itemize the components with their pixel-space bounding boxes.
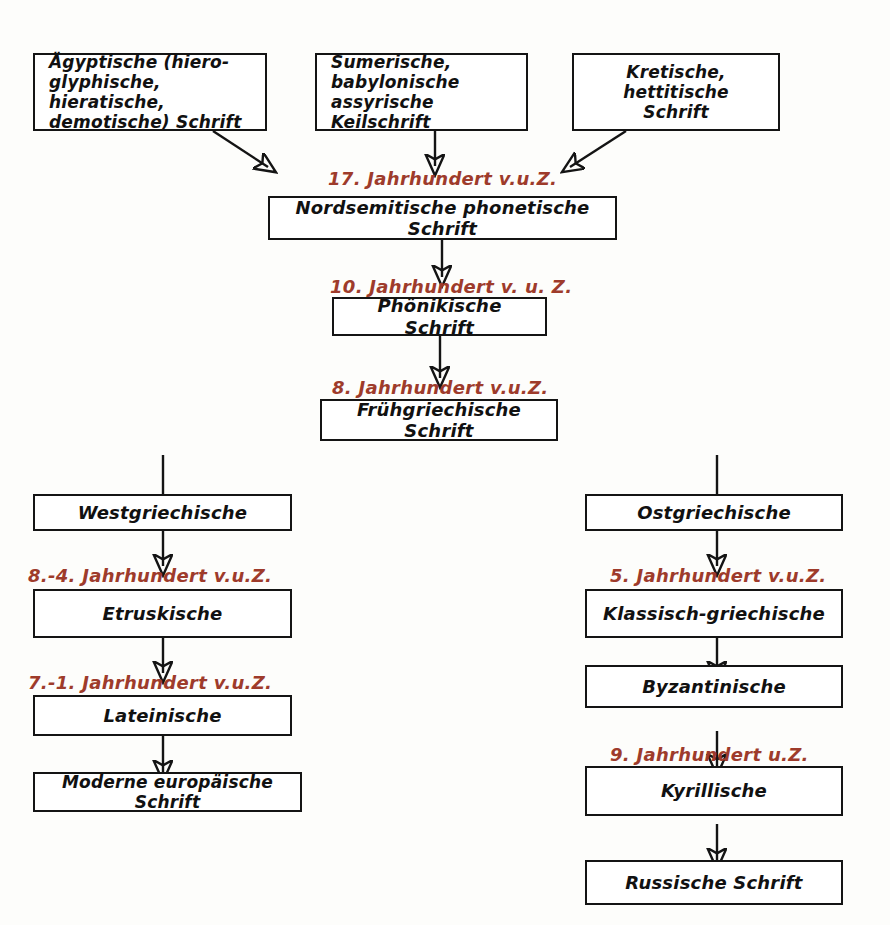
node-kyrillische-label: Kyrillische bbox=[661, 780, 767, 801]
node-ostgriechische[interactable]: Ostgriechische bbox=[585, 494, 843, 531]
node-etruskische-label: Etruskische bbox=[102, 603, 222, 624]
era-5-jahrhundert: 5. Jahrhundert v.u.Z. bbox=[610, 565, 826, 586]
era-8-jahrhundert: 8. Jahrhundert v.u.Z. bbox=[332, 377, 548, 398]
node-etruskische[interactable]: Etruskische bbox=[33, 589, 292, 638]
node-kyrillische[interactable]: Kyrillische bbox=[585, 766, 843, 816]
era-10-jahrhundert: 10. Jahrhundert v. u. Z. bbox=[330, 276, 572, 297]
node-keilschrift[interactable]: Sumerische, babylonische assyrische Keil… bbox=[315, 53, 528, 131]
era-7-1-jahrhundert: 7.-1. Jahrhundert v.u.Z. bbox=[28, 672, 272, 693]
node-nordsemitische[interactable]: Nordsemitische phonetische Schrift bbox=[268, 196, 617, 240]
node-westgriechische-label: Westgriechische bbox=[78, 502, 247, 523]
node-kretische[interactable]: Kretische, hettitische Schrift bbox=[572, 53, 780, 131]
node-moderne-label: Moderne europäische Schrift bbox=[41, 772, 294, 812]
node-lateinische-label: Lateinische bbox=[103, 705, 221, 726]
connector-kretische-to-nordsemitische bbox=[570, 131, 626, 167]
node-westgriechische[interactable]: Westgriechische bbox=[33, 494, 292, 531]
script-evolution-diagram: Ägyptische (hiero- glyphische, hieratisc… bbox=[0, 0, 890, 925]
node-aegyptische[interactable]: Ägyptische (hiero- glyphische, hieratisc… bbox=[33, 53, 267, 131]
node-moderne[interactable]: Moderne europäische Schrift bbox=[33, 772, 302, 812]
node-phoenikische-label: Phönikische Schrift bbox=[340, 295, 539, 337]
node-phoenikische[interactable]: Phönikische Schrift bbox=[332, 297, 547, 336]
connector-aegyptische-to-nordsemitische bbox=[213, 131, 268, 167]
node-russische[interactable]: Russische Schrift bbox=[585, 860, 843, 905]
era-9-jahrhundert: 9. Jahrhundert u.Z. bbox=[610, 744, 809, 765]
node-keilschrift-label: Sumerische, babylonische assyrische Keil… bbox=[331, 52, 520, 132]
node-fruehgriechische-label: Frühgriechische Schrift bbox=[328, 399, 550, 441]
node-ostgriechische-label: Ostgriechische bbox=[637, 502, 791, 523]
node-byzantinische-label: Byzantinische bbox=[642, 676, 786, 697]
node-russische-label: Russische Schrift bbox=[625, 872, 802, 893]
node-kretische-label: Kretische, hettitische Schrift bbox=[580, 62, 772, 122]
node-nordsemitische-label: Nordsemitische phonetische Schrift bbox=[276, 197, 609, 239]
node-klassisch-griechische-label: Klassisch-griechische bbox=[603, 603, 825, 624]
node-aegyptische-label: Ägyptische (hiero- glyphische, hieratisc… bbox=[49, 52, 259, 132]
node-klassisch-griechische[interactable]: Klassisch-griechische bbox=[585, 589, 843, 638]
node-fruehgriechische[interactable]: Frühgriechische Schrift bbox=[320, 399, 558, 441]
era-17-jahrhundert: 17. Jahrhundert v.u.Z. bbox=[328, 168, 557, 189]
node-lateinische[interactable]: Lateinische bbox=[33, 695, 292, 736]
node-byzantinische[interactable]: Byzantinische bbox=[585, 665, 843, 708]
era-8-4-jahrhundert: 8.-4. Jahrhundert v.u.Z. bbox=[28, 565, 272, 586]
